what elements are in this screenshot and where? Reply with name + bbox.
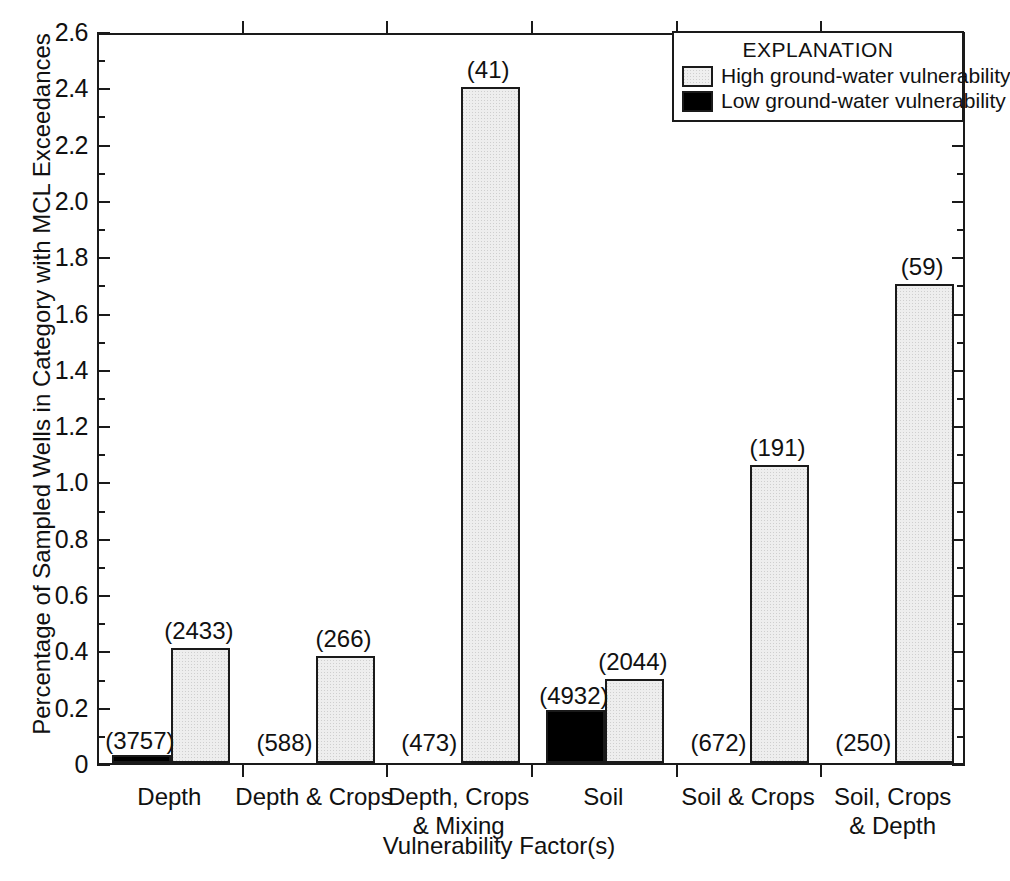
plot-area xyxy=(97,33,965,765)
y-tick-label: 2.0 xyxy=(14,189,88,214)
y-tick-label: 1.4 xyxy=(14,358,88,383)
y-tick-label: 1.2 xyxy=(14,414,88,439)
bar-count-label-low: (4932) xyxy=(524,684,624,708)
y-tick-label: 0.2 xyxy=(14,696,88,721)
x-tick-mark xyxy=(242,765,244,777)
x-axis-title: Vulnerability Factor(s) xyxy=(0,832,998,860)
y-tick-label: 2.4 xyxy=(14,76,88,101)
y-tick-label: 0.4 xyxy=(14,639,88,664)
y-tick-label: 1.8 xyxy=(14,245,88,270)
legend-entry: High ground-water vulnerability xyxy=(682,64,954,88)
legend-label: High ground-water vulnerability xyxy=(721,64,1010,88)
y-tick-label: 0 xyxy=(14,752,88,777)
legend-entries: High ground-water vulnerabilityLow groun… xyxy=(682,64,954,113)
bar-count-label-low: (3757) xyxy=(90,729,190,753)
bar-count-label-low: (672) xyxy=(669,731,769,755)
legend-swatch-low xyxy=(682,91,713,112)
bar-high-vulnerability xyxy=(461,87,520,763)
x-tick-mark-top xyxy=(242,21,244,33)
bar-low-vulnerability xyxy=(112,755,171,763)
bar-count-label-high: (191) xyxy=(718,436,838,460)
y-tick-label: 0.8 xyxy=(14,527,88,552)
bar-low-vulnerability xyxy=(546,710,605,763)
x-tick-mark xyxy=(676,765,678,777)
bar-count-label-high: (2044) xyxy=(573,650,693,674)
bar-count-label-low: (588) xyxy=(235,731,335,755)
y-tick-label: 0.6 xyxy=(14,583,88,608)
y-tick-label: 1.0 xyxy=(14,470,88,495)
x-axis-ticks-bottom xyxy=(97,765,965,779)
x-tick-mark-top xyxy=(386,21,388,33)
bar-count-label-high: (266) xyxy=(284,627,404,651)
legend-entry: Low ground-water vulnerability xyxy=(682,89,954,113)
bar-count-label-high: (59) xyxy=(862,255,982,279)
legend-label: Low ground-water vulnerability xyxy=(721,89,1006,113)
bar-count-label-low: (250) xyxy=(813,731,913,755)
bar-count-label-low: (473) xyxy=(379,731,479,755)
x-tick-mark-top xyxy=(531,21,533,33)
y-tick-label: 2.2 xyxy=(14,133,88,158)
bar-high-vulnerability xyxy=(895,284,954,763)
legend-swatch-high xyxy=(682,66,713,87)
y-tick-label: 2.6 xyxy=(14,20,88,45)
bar-high-vulnerability xyxy=(750,465,809,763)
legend-title: EXPLANATION xyxy=(682,37,954,62)
y-tick-label: 1.6 xyxy=(14,302,88,327)
bar-count-label-high: (2433) xyxy=(139,619,259,643)
y-axis-tick-labels: 00.20.40.60.81.01.21.41.61.82.02.22.42.6 xyxy=(0,33,88,765)
legend-box: EXPLANATION High ground-water vulnerabil… xyxy=(672,31,964,122)
x-tick-mark xyxy=(531,765,533,777)
bar-count-label-high: (41) xyxy=(428,58,548,82)
x-tick-mark xyxy=(820,765,822,777)
x-tick-mark xyxy=(386,765,388,777)
